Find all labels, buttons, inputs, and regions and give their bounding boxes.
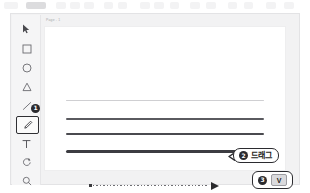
triangle-icon	[22, 82, 32, 92]
tool-circle[interactable]	[16, 60, 37, 76]
callout-step-2: 2 드래그	[233, 148, 279, 163]
cursor-arrow-icon	[22, 24, 31, 34]
toolbar-chip[interactable]	[206, 2, 216, 9]
toolbar-chip[interactable]	[104, 2, 113, 9]
toolbar-chip[interactable]	[170, 2, 179, 9]
toolbar-chip[interactable]	[140, 2, 150, 9]
pen-icon	[23, 120, 33, 130]
toolbar-chip[interactable]	[118, 2, 127, 9]
toolbar-chip[interactable]	[26, 2, 46, 9]
top-toolbar-fragment	[0, 0, 310, 11]
square-icon	[22, 44, 32, 54]
shortcut-key-v: V	[271, 174, 287, 186]
toolbar-chip[interactable]	[228, 2, 237, 9]
screenshot-root: Page - 1 1	[0, 0, 310, 193]
tool-triangle[interactable]	[16, 79, 37, 95]
toolbar-chip[interactable]	[56, 2, 66, 9]
callout-step-2-label: 드래그	[251, 152, 272, 160]
stroke-medium[interactable]	[66, 133, 264, 135]
tool-magnifier[interactable]	[16, 173, 37, 189]
toolbar-chip[interactable]	[190, 2, 200, 9]
toolbar-chip[interactable]	[4, 2, 18, 9]
gesture-dotted-path	[93, 185, 207, 186]
toolbar-chip[interactable]	[266, 2, 276, 9]
stroke-hairline[interactable]	[66, 100, 264, 101]
text-icon	[22, 139, 31, 149]
line-icon	[22, 101, 32, 111]
magnifier-icon	[22, 176, 32, 186]
toolbar-chip[interactable]	[244, 2, 253, 9]
canvas-tab-label: Page - 1	[46, 18, 60, 22]
step-badge-1: 1	[31, 104, 40, 113]
toolbar-chip[interactable]	[84, 2, 94, 9]
toolbar-chip[interactable]	[154, 2, 164, 9]
tool-cursor-arrow[interactable]	[16, 21, 37, 37]
tool-text[interactable]	[16, 136, 37, 152]
stroke-thin[interactable]	[66, 118, 264, 120]
tool-square[interactable]	[16, 41, 37, 57]
circle-icon	[22, 63, 32, 73]
step-badge-3: 3	[258, 176, 267, 185]
gesture-arrowhead-icon	[211, 182, 219, 190]
drag-gesture-arrow	[89, 182, 219, 191]
step-badge-2: 2	[239, 151, 248, 160]
callout-step-3: 3 V	[252, 171, 293, 189]
toolbar-chip[interactable]	[70, 2, 80, 9]
gesture-start-dot	[89, 184, 92, 187]
tool-rotate[interactable]	[16, 154, 37, 170]
rotate-icon	[22, 157, 32, 167]
callout-step-1: 1	[31, 96, 40, 114]
tool-pen[interactable]	[16, 116, 39, 134]
toolbar-chip[interactable]	[284, 2, 294, 9]
